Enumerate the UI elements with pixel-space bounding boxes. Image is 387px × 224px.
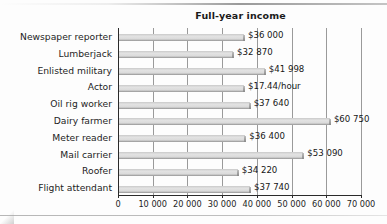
scan-artifact-top-edge (0, 3, 387, 5)
value-label: $17.44/hour (248, 81, 301, 91)
x-axis-line (118, 195, 361, 196)
bar (119, 186, 250, 193)
gridline-70000 (361, 28, 362, 195)
category-label: Enlisted military (0, 65, 112, 76)
x-tick-label-20000: 20 000 (173, 199, 202, 209)
category-label: Newspaper reporter (0, 31, 112, 42)
chart-title: Full-year income (118, 10, 363, 21)
gridline-50000 (292, 28, 293, 195)
bar (119, 152, 303, 159)
bar (119, 85, 244, 92)
category-label: Meter reader (0, 132, 112, 143)
category-label: Lumberjack (0, 48, 112, 59)
category-label: Flight attendant (0, 182, 112, 193)
bar (119, 34, 244, 41)
value-label: $53 090 (307, 148, 343, 158)
category-label: Dairy farmer (0, 115, 112, 126)
bar (119, 169, 238, 176)
category-label: Roofer (0, 165, 112, 176)
bar (119, 51, 233, 58)
chart-screenshot: Full-year income 010 00020 00030 00040 0… (0, 0, 387, 224)
x-tick-label-10000: 10 000 (138, 199, 167, 209)
x-tick-label-0: 0 (115, 199, 120, 209)
value-label: $41 998 (269, 64, 305, 74)
gridline-60000 (326, 28, 327, 195)
bar (119, 135, 245, 142)
x-tick-0 (118, 195, 119, 198)
x-tick-60000 (326, 195, 327, 198)
x-tick-label-60000: 60 000 (312, 199, 341, 209)
x-tick-40000 (257, 195, 258, 198)
category-label: Oil rig worker (0, 98, 112, 109)
value-label: $37 640 (254, 98, 290, 108)
x-tick-30000 (222, 195, 223, 198)
x-tick-10000 (153, 195, 154, 198)
x-tick-label-40000: 40 000 (243, 199, 272, 209)
value-label: $34 220 (242, 165, 278, 175)
bar (119, 68, 265, 75)
bar (119, 118, 330, 125)
x-tick-70000 (361, 195, 362, 198)
value-label: $36 000 (248, 30, 284, 40)
x-tick-50000 (292, 195, 293, 198)
x-tick-20000 (187, 195, 188, 198)
x-tick-label-70000: 70 000 (347, 199, 376, 209)
bar (119, 102, 250, 109)
category-label: Mail carrier (0, 149, 112, 160)
value-label: $60 750 (334, 114, 370, 124)
value-label: $32 870 (237, 47, 273, 57)
x-tick-label-30000: 30 000 (208, 199, 237, 209)
scan-artifact-corner (0, 205, 14, 224)
category-label: Actor (0, 81, 112, 92)
value-label: $36 400 (249, 131, 285, 141)
value-label: $37 740 (254, 182, 290, 192)
scan-artifact-bottom-edge (0, 215, 387, 216)
x-tick-label-50000: 50 000 (277, 199, 306, 209)
